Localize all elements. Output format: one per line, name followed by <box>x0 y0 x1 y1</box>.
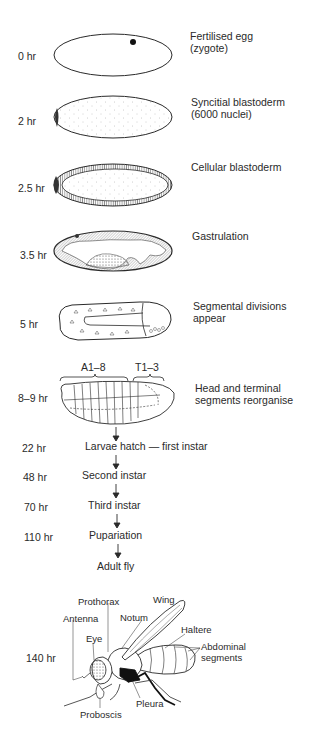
label-haltere: Haltere <box>181 624 212 635</box>
gastrulation-drawing <box>54 231 172 271</box>
post-label-3: Pupariation <box>89 529 142 541</box>
post-time-2: 70 hr <box>24 501 48 513</box>
post-time-0: 22 hr <box>22 442 46 454</box>
label-proboscis: Proboscis <box>80 709 122 720</box>
post-label-1: Second instar <box>82 469 146 481</box>
label-eye: Eye <box>86 633 102 644</box>
stage-time-4: 5 hr <box>20 318 38 330</box>
label-antenna: Antenna <box>63 613 98 624</box>
stage-time-2: 2.5 hr <box>18 182 45 194</box>
stage-desc-5: Head and terminal segments reorganise <box>195 382 293 406</box>
stage-desc-4: Segmental divisions appear <box>193 300 286 324</box>
cellular-blastoderm-drawing <box>54 164 173 206</box>
post-label-4: Adult fly <box>97 560 134 572</box>
label-abdominal-segments: Abdominal segments <box>201 641 246 663</box>
post-label-2: Third instar <box>88 499 141 511</box>
adult-time: 140 hr <box>26 652 56 664</box>
egg-zygote-drawing <box>54 34 172 76</box>
segmented-embryo-drawing <box>61 381 174 424</box>
stage-desc-3-line1: Gastrulation <box>192 230 249 242</box>
stage-desc-0: Fertilised egg (zygote) <box>190 30 253 54</box>
figure-caption-clipped: ▬▬▬▬▬▬▬▬▬▬▬▬ <box>7 731 127 737</box>
stage-desc-2-line1: Cellular blastoderm <box>191 161 281 173</box>
label-wing: Wing <box>153 594 175 605</box>
stage-desc-5-line2: segments reorganise <box>195 394 293 406</box>
syncitial-blastoderm-drawing <box>54 96 172 138</box>
segment-braces <box>60 374 164 381</box>
label-pleura: Pleura <box>136 698 163 709</box>
stage-time-3: 3.5 hr <box>20 249 47 261</box>
stage-desc-0-line2: (zygote) <box>190 42 253 54</box>
label-notum: Notum <box>120 612 148 623</box>
label-prothorax: Prothorax <box>78 596 119 607</box>
stage-desc-4-line2: appear <box>193 312 286 324</box>
segment-label-thoracic: T1–3 <box>135 361 159 373</box>
stage-desc-2: Cellular blastoderm <box>191 161 281 173</box>
stage-desc-4-line1: Segmental divisions <box>193 300 286 312</box>
stage-time-0: 0 hr <box>18 50 36 62</box>
stage-desc-5-line1: Head and terminal <box>195 382 293 394</box>
segmental-divisions-drawing <box>59 302 171 340</box>
post-time-1: 48 hr <box>23 471 47 483</box>
stage-desc-0-line1: Fertilised egg <box>190 30 253 42</box>
post-label-0: Larvae hatch — first instar <box>85 440 208 452</box>
segment-label-abdominal: A1–8 <box>81 361 106 373</box>
stage-time-1: 2 hr <box>18 115 36 127</box>
label-abdominal-line1: Abdominal <box>201 641 246 652</box>
stage-desc-1-line1: Syncitial blastoderm <box>191 96 285 108</box>
stage-desc-3: Gastrulation <box>192 230 249 242</box>
stage-desc-1-line2: (6000 nuclei) <box>191 108 285 120</box>
stage-time-5: 8–9 hr <box>18 392 48 404</box>
label-abdominal-line2: segments <box>201 652 246 663</box>
stage-desc-1: Syncitial blastoderm (6000 nuclei) <box>191 96 285 120</box>
post-time-3: 110 hr <box>24 531 53 543</box>
